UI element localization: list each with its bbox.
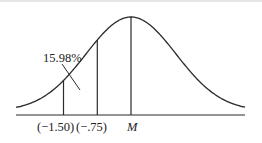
tick-label-z-neg-1-50: (−1.50) [37, 120, 74, 134]
normal-curve-diagram: 15.98% (−1.50) (−.75) M [0, 0, 262, 143]
tick-label-mean: M [126, 120, 138, 134]
tick-label-z-neg-0-75: (−.75) [76, 120, 107, 134]
area-percentage-label: 15.98% [43, 51, 82, 65]
area-pointer-line [62, 64, 80, 90]
